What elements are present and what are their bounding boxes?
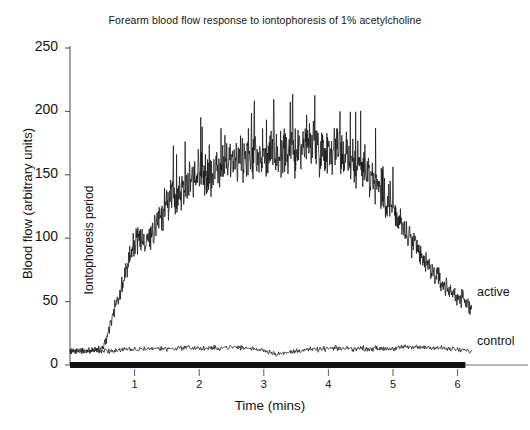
y-tick-label: 200 [18, 101, 58, 117]
x-tick-label: 1 [125, 378, 145, 390]
y-tick-label: 150 [18, 165, 58, 181]
x-tick-label: 4 [318, 378, 338, 390]
y-tick-label: 50 [18, 292, 58, 308]
chart-figure: Forearm blood flow response to iontophor… [0, 0, 530, 430]
series-active-trace [70, 94, 471, 354]
series-control-trace [70, 345, 472, 357]
x-tick-label: 5 [383, 378, 403, 390]
x-tick-label: 2 [189, 378, 209, 390]
y-tick-label: 100 [18, 228, 58, 244]
iontophoresis-period-label: Iontophoresis period [82, 148, 96, 333]
iontophoresis-bar [70, 362, 465, 368]
y-tick-label: 0 [18, 355, 58, 371]
series-label-active: active [477, 285, 510, 299]
x-tick-label: 6 [448, 378, 468, 390]
x-axis-label: Time (mins) [120, 398, 420, 413]
y-tick-label: 250 [18, 38, 58, 54]
plot-area [0, 0, 530, 430]
series-label-control: control [477, 334, 515, 348]
y-axis-label: Blood flow (arbitrary units) [20, 104, 35, 304]
x-tick-label: 3 [254, 378, 274, 390]
